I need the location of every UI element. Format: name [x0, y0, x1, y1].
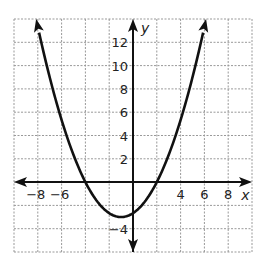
curve-left-arrow-icon	[34, 19, 44, 33]
y-tick-label: 4	[120, 129, 128, 144]
y-axis-label: y	[140, 20, 150, 36]
parabola-graph: −8−646812108642−4 x y	[0, 0, 253, 267]
y-tick-label: 10	[111, 59, 128, 74]
x-tick-label: 6	[200, 187, 208, 202]
y-tick-label: −4	[109, 222, 128, 237]
y-tick-label: 12	[111, 35, 128, 50]
y-tick-label: 8	[120, 82, 128, 97]
y-tick-label: 6	[120, 105, 128, 120]
x-tick-label: −8	[26, 187, 45, 202]
curve-right-arrow-icon	[198, 19, 208, 33]
x-axis-label: x	[240, 187, 250, 203]
x-tick-label: −6	[50, 187, 69, 202]
y-tick-label: 2	[120, 152, 128, 167]
coordinate-plane: −8−646812108642−4 x y	[0, 0, 253, 267]
x-tick-label: 4	[176, 187, 184, 202]
x-tick-label: 8	[224, 187, 232, 202]
